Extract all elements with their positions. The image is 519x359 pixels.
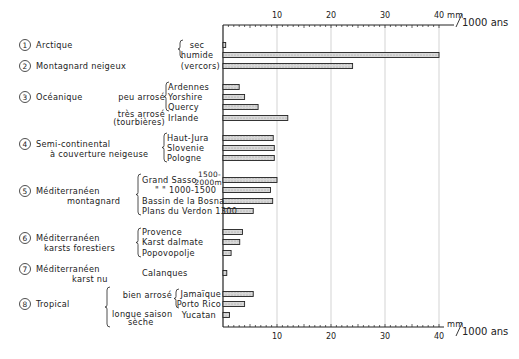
row-label: Calanques	[142, 268, 188, 278]
bar	[223, 251, 231, 256]
bar	[223, 85, 239, 90]
bar	[223, 105, 258, 110]
brace	[136, 228, 141, 257]
bar	[223, 116, 288, 121]
subgroup-label: bien arrosé	[123, 290, 172, 300]
group-number: 4	[22, 140, 27, 149]
annotation: 2000m	[194, 178, 222, 187]
row-label: Karst dalmate	[142, 237, 203, 247]
row-label: Bassin de la Bosna	[142, 196, 224, 206]
group-name: Arctique	[36, 40, 73, 50]
group-number: 2	[22, 62, 27, 71]
row-label: Provence	[142, 227, 182, 237]
bar	[223, 95, 245, 100]
row-label: Ardennes	[168, 82, 209, 92]
tick-label-bottom: 20	[326, 332, 336, 341]
group-name: Tropical	[35, 299, 70, 309]
row-label: humide	[181, 50, 214, 60]
subgroup-label: sèche	[128, 317, 154, 327]
group-number: 8	[22, 300, 27, 309]
bar	[223, 188, 271, 193]
bar	[223, 178, 277, 183]
bar	[223, 43, 226, 48]
brace	[105, 287, 110, 327]
group-name: Méditerranéen	[36, 264, 100, 274]
group-name-line2: montagnard	[67, 196, 120, 206]
row-label: Irlande	[168, 113, 199, 123]
tick-label-bottom: 10	[272, 332, 282, 341]
tick-label-bottom: 30	[380, 332, 390, 341]
group-number: 7	[22, 265, 27, 274]
brace	[136, 174, 141, 215]
tick-label-top: 30	[380, 11, 390, 20]
grid-lines	[277, 25, 439, 327]
group-name: Semi-continental	[36, 139, 110, 149]
tick-label-top: 20	[326, 11, 336, 20]
row-label: Porto Rico	[177, 299, 221, 309]
bar	[223, 64, 353, 69]
bar	[223, 313, 229, 318]
group-name: Océanique	[36, 92, 83, 102]
group-name-line2: karst nu	[72, 274, 108, 284]
row-label: Plans du Verdon 1300	[142, 206, 237, 216]
group-number: 6	[22, 234, 27, 243]
row-label: (vercors)	[181, 61, 220, 71]
row-label: Yorshire	[167, 92, 203, 102]
tick-label-bottom: 40	[434, 332, 444, 341]
axes: 1010202030304040mm1000 ansmm1000 ans	[223, 10, 508, 341]
group-name: Montagnard neigeux	[36, 61, 126, 71]
group-name-line2: à couverture neigeuse	[50, 149, 148, 159]
row-label: Yucatan	[181, 310, 216, 320]
bar	[223, 240, 240, 245]
bar	[223, 156, 274, 161]
category-labels: sechumide(vercors)ArdennesYorshireQuercy…	[20, 40, 238, 328]
bar	[223, 199, 273, 204]
group-number: 3	[22, 93, 27, 102]
bar	[223, 53, 439, 58]
bar	[223, 302, 245, 307]
subgroup-label: (tourbières)	[113, 117, 165, 127]
row-label: sec	[190, 40, 205, 50]
unit-denominator: 1000 ans	[462, 326, 508, 337]
group-name-line2: karsts forestiers	[44, 243, 115, 253]
unit-denominator: 1000 ans	[462, 17, 508, 28]
bar	[223, 292, 253, 297]
row-label: Jamaïque	[179, 289, 221, 299]
subgroup-label: peu arrosé	[118, 92, 165, 102]
erosion-rate-chart: 1010202030304040mm1000 ansmm1000 ans sec…	[0, 0, 519, 359]
bar	[223, 136, 273, 141]
group-number: 5	[22, 187, 27, 196]
bar	[223, 271, 227, 276]
row-label: Slovenie	[167, 143, 204, 153]
row-label: Quercy	[168, 102, 199, 112]
group-name: Méditerranéen	[36, 186, 100, 196]
row-label: Grand Sasso	[142, 175, 197, 185]
row-label: Pologne	[167, 153, 201, 163]
group-number: 1	[22, 41, 27, 50]
bar	[223, 146, 274, 151]
tick-label-top: 10	[272, 11, 282, 20]
group-name: Méditerranéen	[36, 233, 100, 243]
row-label: Haut-Jura	[167, 133, 209, 143]
bar	[223, 230, 242, 235]
tick-label-top: 40	[434, 11, 444, 20]
row-label: Popovopolje	[142, 248, 195, 258]
